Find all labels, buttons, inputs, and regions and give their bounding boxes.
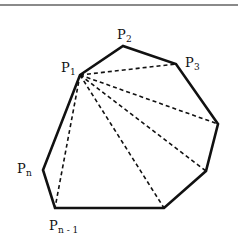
svg-text:P: P: [117, 27, 126, 42]
svg-text:n: n: [26, 168, 32, 178]
svg-text:1: 1: [70, 67, 76, 77]
diagram-figure: P 1 P 2 P 3 P n P n - 1: [0, 0, 238, 241]
svg-text:P: P: [17, 161, 26, 176]
svg-text:P: P: [185, 55, 194, 70]
polygon-diagram: P 1 P 2 P 3 P n P n - 1: [0, 0, 238, 241]
svg-text:3: 3: [194, 62, 200, 72]
vertex-label-pn-1: P n - 1: [49, 218, 78, 235]
diagonal-p1-pn-1: [55, 75, 80, 208]
svg-text:P: P: [61, 60, 70, 75]
svg-text:2: 2: [126, 34, 132, 44]
svg-text:P: P: [49, 218, 58, 233]
vertex-label-pn: P n: [17, 161, 32, 178]
diagonal-p1-v4: [80, 75, 218, 124]
vertex-label-p3: P 3: [185, 55, 200, 72]
diagonals: [55, 64, 218, 208]
vertex-label-p1: P 1: [61, 60, 76, 77]
diagonal-p1-v5: [80, 75, 206, 171]
vertex-label-p2: P 2: [117, 27, 132, 44]
svg-text:n - 1: n - 1: [58, 225, 78, 235]
diagonal-p1-v6: [80, 75, 164, 208]
